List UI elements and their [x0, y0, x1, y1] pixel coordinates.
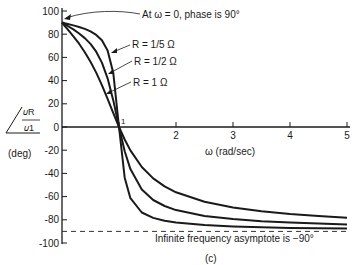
x-tick-label: 3	[230, 130, 236, 141]
x-tick-label: 5	[344, 130, 350, 141]
curve-r-1-5-	[62, 23, 347, 229]
resonance-marker: 1	[121, 117, 126, 126]
annotation-r-one-text: R = 1 Ω	[133, 77, 168, 88]
y-tick-label: -40	[45, 168, 60, 179]
annotation-omega-zero-text: At ω = 0, phase is 90°	[142, 9, 240, 20]
curve-r-1-2-	[62, 23, 347, 225]
y-tick-label: 20	[48, 98, 60, 109]
axes	[62, 8, 350, 244]
y-tick-label: -20	[45, 145, 60, 156]
y-tick-label: 80	[48, 29, 60, 40]
x-ticks: 2345	[119, 122, 350, 141]
y-label-denominator: 𝜐1	[24, 123, 34, 133]
y-tick-label: 60	[48, 52, 60, 63]
y-axis-label: 𝜐R 𝜐1 (deg)	[6, 107, 40, 159]
y-label-unit: (deg)	[8, 148, 31, 159]
curve-r-1-	[62, 23, 347, 218]
annotation-r-half: R = 1/2 Ω	[108, 56, 177, 74]
x-tick-label: 2	[173, 130, 179, 141]
y-ticks: 100806040200-20-40-60-80-100	[39, 6, 67, 249]
y-tick-label: -100	[39, 238, 59, 249]
annotation-omega-zero: At ω = 0, phase is 90°	[64, 9, 240, 20]
annotation-r-fifth-text: R = 1/5 Ω	[132, 39, 175, 50]
y-tick-label: 100	[42, 6, 59, 17]
asymptote-label: Infinite frequency asymptote is −90°	[155, 233, 314, 244]
x-axis-label: ω (rad/sec)	[205, 146, 255, 157]
y-label-numerator: 𝜐R	[23, 107, 35, 117]
y-tick-label: -80	[45, 214, 60, 225]
phase-chart: 100806040200-20-40-60-80-100 2345 At ω =…	[0, 0, 362, 265]
y-tick-label: 40	[48, 75, 60, 86]
figure-caption: (c)	[205, 253, 217, 264]
y-tick-label: -60	[45, 191, 60, 202]
y-tick-label: 0	[53, 122, 59, 133]
x-tick-label: 4	[287, 130, 293, 141]
annotation-r-fifth: R = 1/5 Ω	[111, 39, 175, 53]
annotation-r-half-text: R = 1/2 Ω	[134, 56, 177, 67]
curves	[62, 23, 347, 229]
